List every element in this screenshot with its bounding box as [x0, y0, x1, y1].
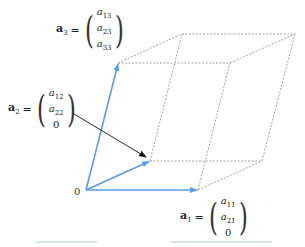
matrix-a3: ( a13 a23 a33 )	[82, 6, 127, 54]
faint-caption-fragment	[35, 241, 97, 243]
origin-label: 0	[74, 186, 80, 197]
vector-a2-label: a2 = ( a12 a22 0 )	[8, 87, 78, 131]
matrix-a1: ( a11 a21 0 )	[206, 195, 251, 239]
matrix-a2: ( a12 a22 0 )	[34, 87, 79, 131]
vector-a3-label: a3 = ( a13 a23 a33 )	[56, 6, 126, 54]
vector-a1-label: a1 = ( a11 a21 0 )	[180, 195, 250, 239]
vector-a3	[86, 64, 118, 190]
parallelepiped-edges	[118, 34, 295, 190]
faint-caption-fragment	[170, 241, 272, 243]
vector-a2	[86, 162, 149, 191]
pointer-arrow	[74, 114, 146, 157]
